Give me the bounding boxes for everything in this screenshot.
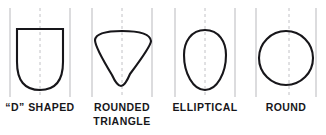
shape-label-rounded-triangle: ROUNDED TRIANGLE <box>80 101 164 128</box>
shape-label-elliptical: ELLIPTICAL <box>164 101 246 115</box>
shape-drawing-d-shaped <box>0 0 80 100</box>
shape-classification-figure: “D” SHAPED ROUNDED TRIANGLE ELLIPTICAL <box>0 0 326 135</box>
circle-outline <box>259 31 313 85</box>
shape-drawing-rounded-triangle <box>80 0 164 100</box>
shape-label-round: ROUND <box>246 101 326 115</box>
shape-drawing-elliptical <box>164 0 246 100</box>
rounded-triangle-outline <box>95 31 151 86</box>
shape-panel-elliptical: ELLIPTICAL <box>164 0 246 135</box>
shape-panel-d-shaped: “D” SHAPED <box>0 0 80 135</box>
shape-label-d-shaped: “D” SHAPED <box>0 101 80 115</box>
shape-drawing-round <box>246 0 326 100</box>
shape-panel-round: ROUND <box>246 0 326 135</box>
shape-panel-rounded-triangle: ROUNDED TRIANGLE <box>80 0 164 135</box>
